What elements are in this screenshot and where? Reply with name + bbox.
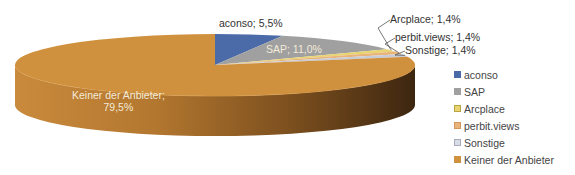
legend-swatch-icon (454, 122, 461, 129)
legend-swatch-icon (454, 105, 461, 112)
legend-swatch-icon (454, 71, 461, 78)
legend-label: aconso (464, 69, 498, 81)
data-label-sap: SAP; 11,0% (266, 43, 322, 55)
data-label-sonstige: Sonstige; 1,4% (405, 44, 476, 56)
legend-swatch-icon (454, 139, 461, 146)
legend-item-perbit-views: perbit.views (454, 117, 554, 134)
legend-label: SAP (464, 86, 485, 98)
chart-legend: aconso SAP Arcplace perbit.views Sonstig… (454, 66, 554, 168)
data-label-aconso: aconso; 5,5% (219, 17, 283, 29)
legend-label: perbit.views (464, 120, 519, 132)
legend-item-arcplace: Arcplace (454, 100, 554, 117)
legend-item-keiner: Keiner der Anbieter (454, 151, 554, 168)
legend-item-sap: SAP (454, 83, 554, 100)
data-label-arcplace: Arcplace; 1,4% (390, 13, 461, 25)
pie-top-slices (15, 34, 415, 96)
legend-item-aconso: aconso (454, 66, 554, 83)
legend-swatch-icon (454, 88, 461, 95)
legend-label: Keiner der Anbieter (464, 154, 554, 166)
legend-label: Arcplace (464, 103, 505, 115)
legend-label: Sonstige (464, 137, 505, 149)
data-label-keiner: Keiner der Anbieter; 79,5% (72, 89, 165, 113)
legend-item-sonstige: Sonstige (454, 134, 554, 151)
data-label-keiner-name: Keiner der Anbieter; (72, 89, 165, 101)
data-label-keiner-value: 79,5% (72, 101, 165, 113)
legend-swatch-icon (454, 156, 461, 163)
data-label-perbit-views: perbit.views; 1,4% (395, 31, 480, 43)
